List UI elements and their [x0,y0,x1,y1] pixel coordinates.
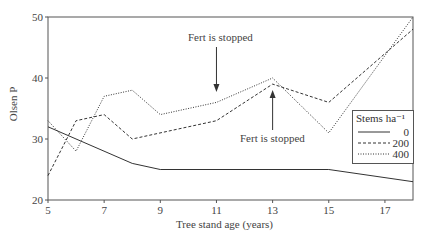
x-tick-label: 11 [211,204,222,216]
y-tick-label: 20 [32,194,44,206]
annotation-bottom: Fert is stopped [240,132,305,144]
y-tick-label: 40 [32,72,44,84]
x-axis-label: Tree stand age (years) [176,218,273,230]
x-tick-label: 15 [323,204,335,216]
x-tick-label: 13 [267,204,279,216]
x-tick-label: 9 [158,204,164,216]
y-tick-label: 30 [32,133,44,145]
y-axis-label: Olsen P [7,87,19,122]
x-tick-label: 5 [45,204,51,216]
plot-frame [48,17,413,200]
annotation-top: Fert is stopped [188,31,253,43]
x-tick-label: 17 [379,204,391,216]
legend: Stems ha⁻¹ 0 200 400 [352,110,414,164]
legend-entry-400: 400 [356,148,411,160]
legend-title: Stems ha⁻¹ [356,112,405,125]
y-tick-label: 50 [32,11,44,23]
x-tick-label: 7 [101,204,107,216]
